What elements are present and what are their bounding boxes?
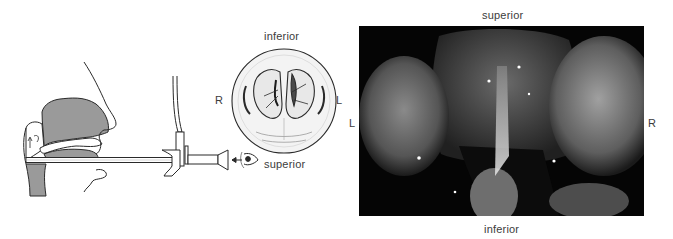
- photo-label-bottom: inferior: [484, 223, 519, 235]
- eye-label: superior: [264, 158, 305, 170]
- photo-label-top: superior: [482, 9, 523, 21]
- figure: inferior R L superior: [0, 0, 673, 239]
- mirror-label-top: inferior: [264, 30, 299, 42]
- photo-label-right: R: [648, 117, 656, 129]
- larynx-view-circle-icon: [232, 49, 336, 153]
- head-profile-icon: [24, 62, 116, 196]
- mirror-label-left: R: [215, 94, 223, 106]
- mirror-label-right: L: [336, 94, 342, 106]
- endoscopic-photo: [359, 26, 644, 216]
- photo-label-left: L: [349, 117, 355, 129]
- eye-icon: [232, 152, 258, 168]
